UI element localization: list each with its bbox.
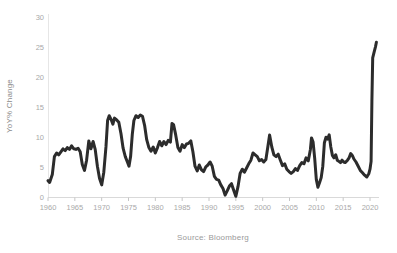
y-tick-label: 0 [40,193,44,202]
y-tick-label: 10 [36,133,44,142]
line-chart: 1960196519701975198019851990199520002005… [0,0,397,253]
y-tick-label: 5 [40,163,44,172]
x-tick-label: 1990 [201,203,218,212]
source-caption: Source: Bloomberg [177,233,249,242]
x-tick-label: 2000 [254,203,271,212]
y-tick-label: 20 [36,73,44,82]
x-axis-ticks: 1960196519701975198019851990199520002005… [40,198,379,213]
y-tick-label: 15 [36,103,44,112]
data-series-line [48,42,376,196]
x-tick-label: 2015 [335,203,352,212]
x-tick-label: 2010 [308,203,325,212]
y-axis-title: YoY% Change [5,79,14,133]
x-tick-label: 1985 [174,203,191,212]
x-tick-label: 1970 [93,203,110,212]
x-tick-label: 1995 [227,203,244,212]
y-axis-ticks: 051015202530 [36,13,44,203]
x-tick-label: 1975 [120,203,137,212]
y-tick-label: 25 [36,43,44,52]
x-tick-label: 2005 [281,203,298,212]
y-tick-label: 30 [36,13,44,22]
x-tick-label: 2020 [362,203,379,212]
x-tick-label: 1965 [66,203,83,212]
x-tick-label: 1980 [147,203,164,212]
chart-container: 1960196519701975198019851990199520002005… [0,0,397,253]
x-tick-label: 1960 [40,203,57,212]
